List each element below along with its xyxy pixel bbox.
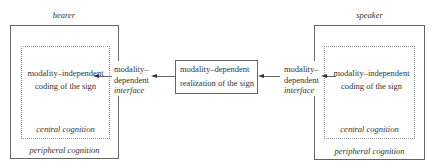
speaker-coding-line2: coding of the sign [328,81,415,92]
hearer-coding-line2: coding of the sign [21,81,110,92]
realization-line2: realization of the sign [180,78,254,89]
speaker-interface-line1: modality– [284,64,319,75]
speaker-outer-left-top [314,25,315,61]
hearer-outer-top [10,25,119,26]
speaker-central-label: central cognition [324,124,415,135]
speaker-interface-line2: dependent [284,75,319,86]
hearer-central-label: central cognition [21,124,110,135]
speaker-coding-line1: modality–independent [328,68,415,79]
speaker-outer-right [424,25,425,160]
realization-line1: modality–dependent [180,64,254,75]
speaker-interface-text: modality– dependent interface [284,64,319,96]
speaker-to-realization-arrowhead-icon [258,74,264,78]
hearer-outer-right-top [118,25,119,61]
speaker-title: speaker [314,10,425,21]
speaker-peripheral-label: peripheral cognition [314,146,425,157]
realization-to-hearer-arrow-line [155,76,175,77]
speaker-interface-arrow-line [326,76,336,77]
speaker-coding-text: modality–independent coding of the sign [328,68,415,91]
hearer-interface-arrow-line [98,76,112,77]
hearer-peripheral-label: peripheral cognition [10,145,119,156]
hearer-outer-bottom [10,158,119,159]
hearer-interface-line2: dependent [114,75,149,86]
speaker-outer-top [314,25,425,26]
hearer-outer-left [10,25,11,159]
hearer-interface-line3: interface [114,85,149,96]
hearer-interface-arrowhead-icon [93,74,99,78]
hearer-interface-text: modality– dependent interface [114,64,149,96]
speaker-outer-bottom [314,159,425,160]
speaker-interface-line3: interface [284,85,319,96]
hearer-coding-text: modality–independent coding of the sign [21,68,110,91]
hearer-interface-line1: modality– [114,64,149,75]
speaker-interface-arrowhead-icon [321,74,327,78]
realization-to-hearer-arrowhead-icon [151,74,157,78]
realization-text: modality–dependent realization of the si… [180,64,254,88]
hearer-title: hearer [10,10,118,21]
speaker-to-realization-arrow-line [262,76,280,77]
